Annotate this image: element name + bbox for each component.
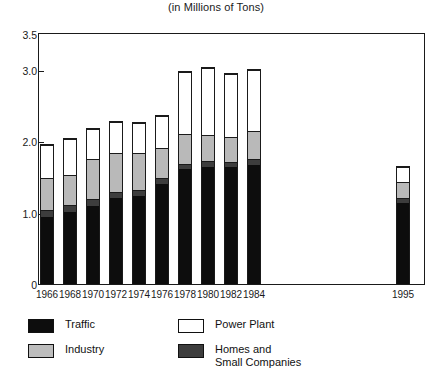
y-axis-tick-label: 0 [7,280,37,291]
legend-column-right: Power PlantHomes and Small Companies [178,318,301,377]
bar-1972 [109,121,123,285]
y-axis-tick-mark [38,71,44,72]
bar-segment-traffic [41,217,53,284]
bar-segment-power-plant [397,167,409,182]
bar-segment-industry [225,137,237,162]
legend-item-power: Power Plant [178,318,301,333]
chart-legend: TrafficIndustry Power PlantHomes and Sma… [0,318,432,377]
legend-swatch-power [178,319,204,333]
bar-1995 [396,166,410,285]
bar-segment-power-plant [87,129,99,159]
bar-segment-industry [87,159,99,199]
bar-1968 [63,138,77,285]
y-axis-tick-mark [38,142,44,143]
bar-segment-power-plant [156,116,168,149]
y-axis-tick-label: 1.0 [7,209,37,220]
legend-label-homes: Homes and Small Companies [215,343,301,369]
bar-1974 [132,122,146,285]
bar-segment-traffic [87,206,99,284]
bar-segment-industry [397,182,409,197]
stacked-bar-chart: 3.53.02.01.00 19661968197019721974197619… [0,18,432,310]
bar-1976 [155,115,169,285]
bar-1982 [224,73,238,285]
y-axis-tick-label: 2.0 [7,137,37,148]
bar-segment-homes-and-small-companies [41,210,53,217]
legend-label-industry: Industry [65,343,104,356]
bar-segment-power-plant [41,145,53,178]
bar-segment-industry [179,134,191,164]
chart-subtitle: (in Millions of Tons) [0,0,432,14]
x-axis-tick-label: 1984 [238,290,270,300]
bar-segment-industry [110,153,122,192]
bar-segment-power-plant [64,139,76,174]
bar-segment-industry [202,135,214,161]
bar-segment-industry [64,175,76,205]
bar-segment-power-plant [133,123,145,153]
bar-segment-industry [133,153,145,190]
bar-segment-industry [248,131,260,159]
legend-swatch-industry [28,344,54,358]
legend-label-traffic: Traffic [65,318,95,331]
bar-segment-power-plant [202,68,214,135]
bar-segment-homes-and-small-companies [64,205,76,212]
legend-label-power: Power Plant [215,318,274,331]
x-axis-tick-label: 1995 [387,290,419,300]
bar-segment-traffic [64,212,76,284]
legend-swatch-traffic [28,319,54,333]
bar-1980 [201,67,215,285]
bar-segment-industry [156,148,168,178]
bar-segment-traffic [156,184,168,284]
y-axis-tick-label: 3.0 [7,66,37,77]
legend-item-homes: Homes and Small Companies [178,343,301,369]
legend-item-industry: Industry [28,343,104,358]
bar-1966 [40,144,54,285]
bar-1970 [86,128,100,285]
legend-column-left: TrafficIndustry [28,318,104,368]
y-axis-tick-label: 3.5 [7,30,37,41]
bar-segment-traffic [248,165,260,284]
bar-segment-traffic [225,167,237,284]
bar-segment-industry [41,178,53,210]
legend-item-traffic: Traffic [28,318,104,333]
bar-segment-power-plant [110,122,122,154]
bar-segment-power-plant [248,70,260,131]
bar-segment-traffic [202,167,214,284]
bar-segment-homes-and-small-companies [87,199,99,206]
bar-segment-traffic [179,169,191,284]
bar-1984 [247,69,261,285]
legend-swatch-homes [178,344,204,358]
bar-segment-traffic [397,203,409,284]
bar-segment-traffic [110,198,122,284]
bar-1978 [178,71,192,286]
bar-segment-traffic [133,196,145,284]
bar-segment-power-plant [225,74,237,137]
bar-segment-power-plant [179,72,191,134]
